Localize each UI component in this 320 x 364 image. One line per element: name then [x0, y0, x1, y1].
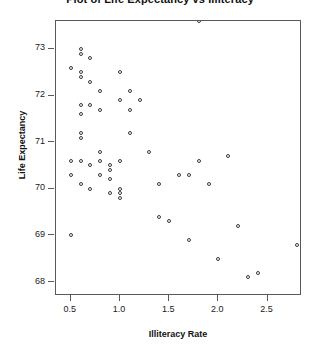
x-tick-label: 2.0 — [197, 304, 237, 314]
x-tick-mark — [70, 295, 71, 301]
data-point — [88, 163, 92, 167]
y-tick-label: 68 — [5, 277, 45, 286]
plot-area — [55, 20, 301, 295]
y-tick-mark — [48, 188, 54, 189]
data-point — [128, 131, 132, 135]
data-point — [108, 191, 112, 195]
data-point — [128, 89, 132, 93]
data-point — [295, 243, 299, 247]
data-point — [98, 173, 102, 177]
data-point — [69, 233, 73, 237]
x-tick-label: 1.5 — [148, 304, 188, 314]
x-tick-label: 2.5 — [247, 304, 287, 314]
data-point — [79, 103, 83, 107]
x-tick-mark — [168, 295, 169, 301]
data-point — [118, 98, 122, 102]
y-tick-mark — [48, 281, 54, 282]
y-tick-label: 69 — [5, 230, 45, 239]
x-tick-label: 1.0 — [99, 304, 139, 314]
data-point — [197, 159, 201, 163]
data-point — [167, 219, 171, 223]
data-point — [108, 177, 112, 181]
data-point — [79, 131, 83, 135]
y-tick-mark — [48, 48, 54, 49]
data-point — [79, 159, 83, 163]
data-points-layer — [56, 21, 300, 294]
data-point — [138, 98, 142, 102]
data-point — [256, 271, 260, 275]
data-point — [118, 196, 122, 200]
data-point — [98, 159, 102, 163]
data-point — [69, 173, 73, 177]
data-point — [118, 70, 122, 74]
data-point — [187, 173, 191, 177]
y-tick-mark — [48, 95, 54, 96]
data-point — [207, 182, 211, 186]
data-point — [79, 112, 83, 116]
y-tick-label: 70 — [5, 183, 45, 192]
data-point — [79, 47, 83, 51]
data-point — [128, 108, 132, 112]
data-point — [79, 75, 83, 79]
data-point — [157, 182, 161, 186]
y-tick-mark — [48, 141, 54, 142]
data-point — [88, 56, 92, 60]
data-point — [108, 163, 112, 167]
data-point — [88, 103, 92, 107]
x-tick-label: 0.5 — [50, 304, 90, 314]
data-point — [118, 187, 122, 191]
data-point — [197, 21, 201, 23]
data-point — [216, 257, 220, 261]
data-point — [69, 159, 73, 163]
data-point — [69, 66, 73, 70]
y-tick-label: 72 — [5, 90, 45, 99]
data-point — [88, 187, 92, 191]
data-point — [108, 168, 112, 172]
scatter-plot-figure: Plot of Life Expectancy vs Illiteracy Li… — [0, 0, 320, 364]
data-point — [98, 89, 102, 93]
data-point — [187, 238, 191, 242]
data-point — [226, 154, 230, 158]
data-point — [157, 215, 161, 219]
x-tick-mark — [267, 295, 268, 301]
data-point — [177, 173, 181, 177]
y-tick-label: 71 — [5, 137, 45, 146]
y-tick-mark — [48, 234, 54, 235]
data-point — [236, 224, 240, 228]
x-axis-label: Illiteracy Rate — [55, 329, 301, 339]
x-tick-mark — [119, 295, 120, 301]
data-point — [79, 182, 83, 186]
data-point — [246, 275, 250, 279]
data-point — [88, 80, 92, 84]
data-point — [118, 191, 122, 195]
data-point — [118, 159, 122, 163]
y-tick-label: 73 — [5, 43, 45, 52]
data-point — [147, 150, 151, 154]
data-point — [98, 150, 102, 154]
x-tick-mark — [217, 295, 218, 301]
data-point — [79, 136, 83, 140]
data-point — [98, 108, 102, 112]
data-point — [79, 52, 83, 56]
chart-title: Plot of Life Expectancy vs Illiteracy — [0, 0, 320, 5]
data-point — [79, 70, 83, 74]
